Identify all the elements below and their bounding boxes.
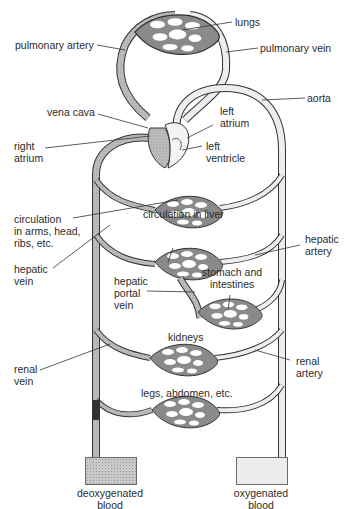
pulmonary-circuit [120,15,226,120]
label-renal-artery: renal artery [296,355,323,379]
label-stomach-intestines: stomach and intestines [202,266,262,290]
legend-swatch-deoxygenated [85,457,137,485]
label-hepatic-artery: hepatic artery [305,233,339,257]
label-right-atrium: right atrium [14,140,43,164]
circulation-diagram [0,0,347,509]
label-aorta: aorta [307,92,331,104]
heart [148,123,189,168]
label-circulation-arms: circulation in arms, head, ribs, etc. [14,213,81,249]
legend-swatch-oxygenated [236,457,288,485]
label-hepatic-portal-vein: hepatic portal vein [114,275,148,311]
label-kidneys: kidneys [168,331,204,343]
label-pulmonary-vein: pulmonary vein [260,42,331,54]
label-left-atrium: left atrium [220,105,249,129]
label-vena-cava: vena cava [47,106,95,118]
label-lungs: lungs [235,16,260,28]
label-hepatic-vein: hepatic vein [14,263,48,287]
label-legs-abdomen: legs, abdomen, etc. [141,387,233,399]
label-renal-vein: renal vein [14,363,37,387]
label-pulmonary-artery: pulmonary artery [15,39,94,51]
label-circulation-liver: circulation in liver [143,208,224,220]
legend-label-deoxygenated: deoxygenated blood [77,487,143,509]
legend-label-oxygenated: oxygenated blood [230,487,292,509]
label-left-ventricle: left ventricle [206,140,245,164]
